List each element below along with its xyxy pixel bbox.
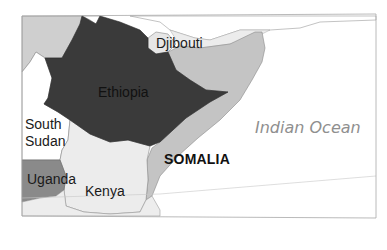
label-djibouti: Djibouti — [156, 36, 203, 50]
label-uganda: Uganda — [27, 172, 76, 186]
label-south-sudan-2: Sudan — [25, 134, 65, 148]
label-somalia: SOMALIA — [164, 152, 230, 166]
label-indian-ocean: Indian Ocean — [255, 120, 361, 136]
label-south-sudan-1: South — [25, 117, 62, 131]
label-kenya: Kenya — [85, 184, 125, 198]
label-ethiopia: Ethiopia — [98, 85, 149, 99]
